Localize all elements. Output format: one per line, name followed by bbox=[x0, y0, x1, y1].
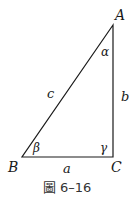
side-label-b: b bbox=[121, 89, 129, 104]
figure-caption: 圖 6–16 bbox=[43, 180, 91, 195]
angle-label-beta: β bbox=[32, 141, 40, 155]
side-label-c: c bbox=[47, 86, 55, 101]
vertex-label-a: A bbox=[113, 7, 125, 23]
side-label-a: a bbox=[63, 161, 71, 176]
triangle-abc bbox=[22, 25, 113, 157]
angle-label-alpha: α bbox=[101, 45, 109, 59]
vertex-label-b: B bbox=[7, 159, 18, 175]
vertex-label-c: C bbox=[111, 159, 122, 175]
angle-label-gamma: γ bbox=[100, 141, 108, 155]
right-triangle-diagram: A B C a b c α β γ 圖 6–16 bbox=[0, 0, 134, 204]
